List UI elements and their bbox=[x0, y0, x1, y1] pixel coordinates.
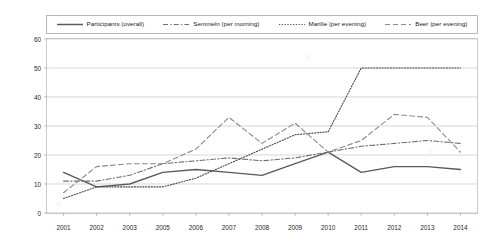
y-tick-label: 10 bbox=[15, 181, 41, 188]
y-tick-label: 30 bbox=[15, 123, 41, 130]
x-tick-label: 2009 bbox=[288, 224, 302, 231]
x-tick-label: 2011 bbox=[354, 224, 368, 231]
series-line-2 bbox=[64, 68, 461, 199]
series-line-0 bbox=[64, 152, 461, 187]
x-tick-label: 2007 bbox=[222, 224, 236, 231]
x-tick-label: 2010 bbox=[321, 224, 335, 231]
x-tick-label: 2012 bbox=[387, 224, 401, 231]
x-tick-label: 2005 bbox=[156, 224, 170, 231]
y-tick-label: 0 bbox=[15, 210, 41, 217]
x-tick-label: 2003 bbox=[123, 224, 137, 231]
x-tick-label: 2008 bbox=[255, 224, 269, 231]
plot-svg bbox=[0, 0, 489, 248]
x-tick-label: 2013 bbox=[420, 224, 434, 231]
y-tick-label: 40 bbox=[15, 94, 41, 101]
y-tick-label: 60 bbox=[15, 36, 41, 43]
y-tick-label: 50 bbox=[15, 65, 41, 72]
x-tick-label: 2002 bbox=[90, 224, 104, 231]
line-chart: Participants (overall)Semmeln (per morni… bbox=[0, 0, 489, 248]
x-tick-label: 2006 bbox=[189, 224, 203, 231]
x-tick-label: 2014 bbox=[453, 224, 467, 231]
y-tick-label: 20 bbox=[15, 152, 41, 159]
x-tick-label: 2001 bbox=[56, 224, 70, 231]
